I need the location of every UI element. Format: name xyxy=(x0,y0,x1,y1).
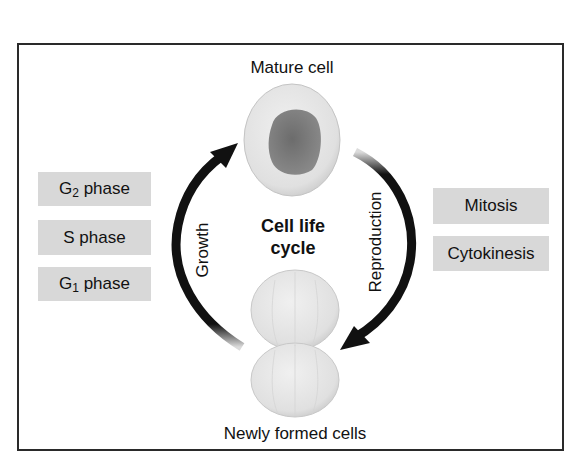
g1-phase-box: G1 phase xyxy=(38,267,151,301)
cell-life-cycle-title: Cell life cycle xyxy=(233,215,353,259)
mitosis-label: Mitosis xyxy=(465,196,518,216)
g1-phase-label: G1 phase xyxy=(59,274,130,294)
dividing-cells-icon xyxy=(251,270,339,417)
mature-cell-icon xyxy=(244,84,340,196)
mitosis-box: Mitosis xyxy=(433,188,549,224)
s-phase-label: S phase xyxy=(63,228,125,248)
mature-cell-label: Mature cell xyxy=(232,58,352,78)
newly-formed-cells-label: Newly formed cells xyxy=(200,424,390,444)
s-phase-box: S phase xyxy=(38,220,151,255)
cytokinesis-box: Cytokinesis xyxy=(433,236,549,271)
center-title-line1: Cell life xyxy=(233,215,353,237)
g2-phase-label: G2 phase xyxy=(59,179,130,199)
center-title-line2: cycle xyxy=(233,237,353,259)
cytokinesis-label: Cytokinesis xyxy=(448,244,535,264)
growth-label: Growth xyxy=(193,223,212,278)
reproduction-label: Reproduction xyxy=(366,191,385,292)
g2-phase-box: G2 phase xyxy=(38,172,151,206)
